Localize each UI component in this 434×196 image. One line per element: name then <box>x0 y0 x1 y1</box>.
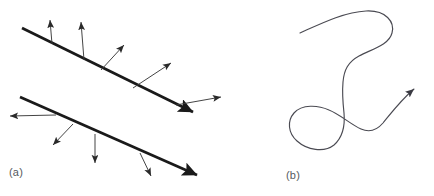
looped-curve <box>289 11 414 150</box>
panel-b-group <box>289 11 414 150</box>
panel-label-a: (a) <box>9 166 23 178</box>
panel-a-branch-arrows <box>10 20 221 176</box>
upper-branch-arrow-3 <box>101 45 124 70</box>
upper-branch-arrow-5 <box>176 97 221 105</box>
figure-canvas <box>0 0 434 196</box>
upper-main-line <box>22 28 193 112</box>
figure-container: (a) (b) <box>0 0 434 196</box>
upper-branch-arrow-4 <box>133 63 171 88</box>
panel-a-main-lines <box>20 28 197 175</box>
lower-branch-arrow-2 <box>53 124 73 145</box>
lower-branch-arrow-4 <box>140 153 151 176</box>
lower-branch-arrow-1 <box>10 115 56 116</box>
lower-main-line <box>20 97 197 175</box>
panel-label-b: (b) <box>286 169 300 181</box>
upper-branch-arrow-2 <box>81 22 84 60</box>
panel-a-group <box>10 20 221 176</box>
